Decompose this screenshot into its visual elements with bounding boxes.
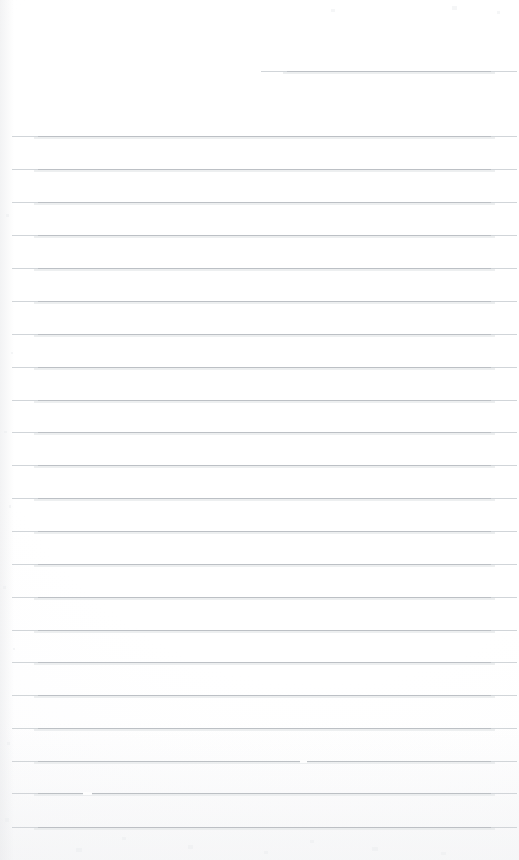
ruled-line bbox=[34, 367, 495, 368]
ruled-line bbox=[34, 334, 495, 335]
ruled-line bbox=[34, 564, 495, 565]
ruled-line bbox=[34, 136, 495, 137]
rule-halo bbox=[34, 203, 495, 205]
ruled-line bbox=[34, 531, 495, 532]
ruled-line bbox=[34, 597, 495, 598]
rule-halo bbox=[34, 762, 495, 764]
rule-halo bbox=[34, 499, 495, 501]
ruled-line bbox=[34, 268, 495, 269]
ruled-line bbox=[34, 400, 495, 401]
rule-halo bbox=[34, 565, 495, 567]
ruled-line bbox=[34, 465, 495, 466]
ruled-line bbox=[34, 827, 495, 828]
rule-halo bbox=[34, 302, 495, 304]
ruled-line bbox=[34, 662, 495, 663]
rule-halo bbox=[34, 794, 495, 796]
rule-halo bbox=[34, 401, 495, 403]
rule-halo bbox=[34, 433, 495, 435]
ruled-line bbox=[34, 432, 495, 433]
rule-halo bbox=[283, 72, 495, 74]
ruled-line bbox=[34, 202, 495, 203]
ruled-line bbox=[34, 235, 495, 236]
rule-dropout bbox=[83, 792, 92, 795]
ruled-line bbox=[34, 498, 495, 499]
rule-halo bbox=[34, 269, 495, 271]
scanned-page bbox=[0, 0, 519, 860]
ruled-line bbox=[34, 695, 495, 696]
rule-halo bbox=[34, 663, 495, 665]
ruled-line bbox=[34, 793, 495, 794]
rule-halo bbox=[34, 466, 495, 468]
rule-halo bbox=[34, 729, 495, 731]
ruled-line bbox=[34, 301, 495, 302]
rule-halo bbox=[34, 236, 495, 238]
rule-halo bbox=[34, 368, 495, 370]
ruled-line bbox=[34, 728, 495, 729]
ruled-lines bbox=[0, 0, 519, 860]
rule-halo bbox=[34, 598, 495, 600]
header-rule bbox=[283, 71, 495, 72]
rule-halo bbox=[34, 532, 495, 534]
rule-halo bbox=[34, 828, 495, 830]
rule-dropout bbox=[300, 760, 307, 763]
rule-halo bbox=[34, 335, 495, 337]
rule-halo bbox=[34, 696, 495, 698]
rule-halo bbox=[34, 170, 495, 172]
rule-halo bbox=[34, 631, 495, 633]
ruled-line bbox=[34, 761, 495, 762]
ruled-line bbox=[34, 169, 495, 170]
ruled-line bbox=[34, 630, 495, 631]
rule-halo bbox=[34, 137, 495, 139]
